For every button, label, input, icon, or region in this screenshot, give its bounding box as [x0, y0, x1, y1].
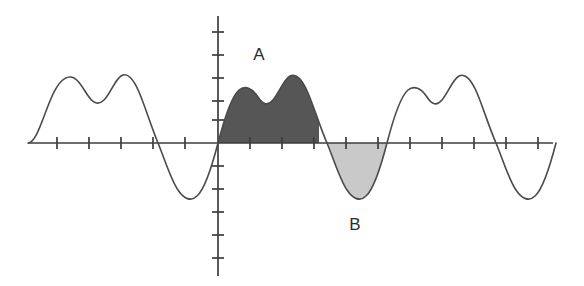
shaded-region-a [28, 75, 584, 199]
region-a-fill [28, 75, 584, 199]
region-b-label: B [349, 215, 360, 234]
region-a-label: A [253, 45, 265, 64]
waveform-figure: A B [0, 0, 584, 286]
